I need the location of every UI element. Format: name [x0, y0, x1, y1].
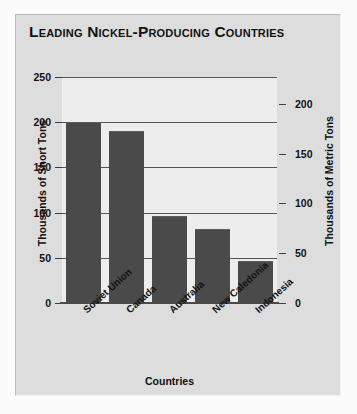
y-axis-left-tick-label: 100: [17, 207, 51, 219]
y-axis-right-tick-label: 150: [295, 148, 313, 160]
y-axis-right-tick: [279, 303, 286, 304]
y-axis-left-tick-label: 200: [17, 116, 51, 128]
y-axis-left: Thousands of Short Tons 050100150200250: [16, 77, 62, 303]
chart-title: Leading Nickel-Producing Countries: [29, 23, 299, 41]
x-axis-title: Countries: [62, 375, 277, 387]
y-axis-left-tick-label: 50: [17, 252, 51, 264]
y-axis-left-tick: [55, 77, 62, 78]
y-axis-left-tick: [55, 167, 62, 168]
y-axis-right-tick-label: 50: [295, 247, 307, 259]
y-axis-right-tick: [279, 154, 286, 155]
y-axis-left-tick: [55, 122, 62, 123]
plot-area: [62, 77, 277, 303]
y-axis-left-tick-label: 0: [17, 297, 51, 309]
y-axis-right-tick-label: 0: [295, 297, 301, 309]
y-axis-left-tick: [55, 258, 62, 259]
y-axis-left-tick-label: 250: [17, 71, 51, 83]
gridline: [62, 77, 277, 78]
bar: [66, 122, 102, 303]
y-axis-right-title: Thousands of Metric Tons: [323, 81, 335, 281]
y-axis-right-tick: [279, 203, 286, 204]
y-axis-right-tick: [279, 104, 286, 105]
y-axis-right: Thousands of Metric Tons 050100150200: [277, 77, 342, 303]
chart-figure: Leading Nickel-Producing Countries Thous…: [15, 14, 341, 396]
y-axis-right-tick-label: 100: [295, 197, 313, 209]
y-axis-right-tick-label: 200: [295, 98, 313, 110]
y-axis-left-tick-label: 150: [17, 161, 51, 173]
y-axis-right-tick: [279, 253, 286, 254]
y-axis-left-tick: [55, 213, 62, 214]
